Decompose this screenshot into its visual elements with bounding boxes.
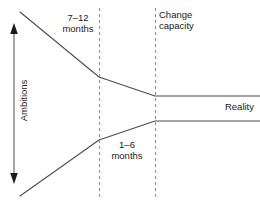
funnel-diagram: 7–12 months 1–6 months Change capacity R… <box>0 0 260 208</box>
label-change-capacity: Change capacity <box>159 9 229 31</box>
ambitions-axis-arrowhead-up <box>10 23 18 34</box>
ambitions-axis-arrowhead-down <box>10 173 18 184</box>
axis-label-ambitions: Ambitions <box>18 66 29 136</box>
label-reality: Reality <box>182 101 254 112</box>
label-period-lower: 1–6 months <box>99 139 155 161</box>
label-period-upper: 7–12 months <box>50 12 106 34</box>
